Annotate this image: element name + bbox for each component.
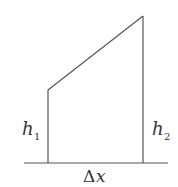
h1-subscript: 1 xyxy=(34,131,40,142)
h1-base: h xyxy=(22,118,34,139)
sloped-top-line xyxy=(48,16,143,90)
h1-label: h 1 xyxy=(22,118,40,142)
h2-label: h 2 xyxy=(152,118,170,142)
h2-base: h xyxy=(152,118,164,139)
delta-x-label: Δ x xyxy=(83,166,106,186)
h2-subscript: 2 xyxy=(164,131,170,142)
x-variable: x xyxy=(96,166,106,186)
trapezoid-diagram: h 1 h 2 Δ x xyxy=(0,0,178,187)
delta-symbol: Δ xyxy=(83,166,95,186)
